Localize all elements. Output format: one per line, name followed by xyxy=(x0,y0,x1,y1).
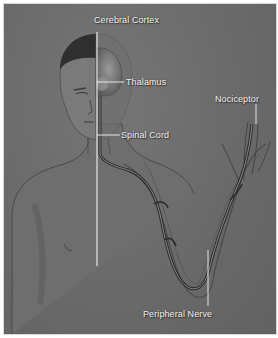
label-nociceptor: Nociceptor xyxy=(215,94,259,104)
label-thalamus: Thalamus xyxy=(126,77,166,87)
torso-outline xyxy=(12,124,194,334)
diagram-frame: Cerebral Cortex Thalamus Nociceptor Spin… xyxy=(3,3,277,335)
anatomy-illustration xyxy=(4,4,276,334)
label-cerebral-cortex: Cerebral Cortex xyxy=(94,15,159,25)
label-spinal-cord: Spinal Cord xyxy=(121,130,169,140)
label-peripheral-nerve: Peripheral Nerve xyxy=(143,309,212,319)
